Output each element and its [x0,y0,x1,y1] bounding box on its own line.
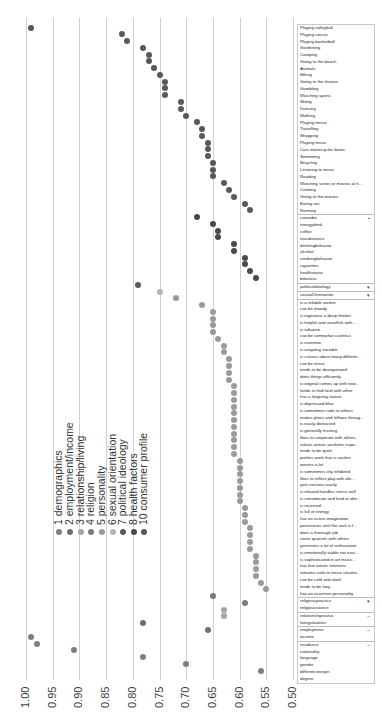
data-point [237,465,243,471]
category-label: is sometimes shy inhibited [298,469,374,476]
category-label: Skiing [298,99,374,106]
axis-tick-label: 0.65 [206,687,218,708]
group-collapse-icon[interactable]: ▾ [367,284,370,291]
data-point [226,356,232,362]
data-point [231,437,237,443]
legend-dot-icon [141,529,147,535]
category-label: is considerate and kind to alm... [298,496,374,503]
category-label: Animals [298,66,374,73]
data-point [199,302,205,308]
legend-dot-icon [88,529,94,535]
group-collapse-icon[interactable]: ▾ [367,292,370,299]
category-label: Gardening [298,45,374,52]
data-point [124,38,130,44]
category-label: religiouspractice▾ [298,597,374,605]
data-point [205,146,211,152]
data-point [247,539,253,545]
gridline [26,18,27,680]
gridline [160,18,161,680]
category-labels-panel[interactable]: Playing volleyballPlaying soccerPlaying … [297,24,375,684]
data-point [210,160,216,166]
category-label: Reading [298,174,374,181]
category-label: Dancing [298,106,374,113]
category-label: nosubstance [298,236,374,243]
category-label: is ingenious a deep thinker [298,313,374,320]
group-collapse-icon[interactable]: ▾ [367,598,370,605]
data-point [140,654,146,660]
data-point [199,133,205,139]
data-point [194,119,200,125]
category-label: Cooking [298,187,374,194]
group-collapse-icon[interactable]: – [367,627,370,634]
data-point [247,207,253,213]
group-collapse-icon[interactable]: ▪ [368,215,370,222]
category-label: Going to the movies [298,194,374,201]
data-point [231,444,237,450]
data-point [231,404,237,410]
group-collapse-icon[interactable]: – [367,613,370,620]
category-label: has a forgiving nature [298,394,374,401]
data-point [162,85,168,91]
data-point [221,607,227,613]
category-label: Camping [298,52,374,59]
data-point [247,268,253,274]
category-label: religiousstance [298,605,374,612]
category-label: Running [298,208,374,215]
category-label: is reserved [298,503,374,510]
gridline [240,18,241,680]
axis-tick-label: 1.00 [19,687,31,708]
category-label: tends to be disorganized [298,367,374,374]
data-point [210,309,216,315]
category-label: cannabis▪ [298,214,374,222]
category-label: smokingbehavior [298,256,374,263]
data-point [221,613,227,619]
data-point [247,525,253,531]
data-point [237,471,243,477]
data-point [119,31,125,37]
category-label: relationshipstatus– [298,612,374,620]
category-label: residence– [298,641,374,649]
data-point [231,397,237,403]
data-point [199,126,205,132]
data-point [242,255,248,261]
data-point [231,451,237,457]
category-label: Cars motorcycles boats [298,147,374,154]
category-label: is emotionally stable not easi... [298,550,374,557]
category-label: employment– [298,626,374,634]
data-point [247,532,253,538]
data-point [205,153,211,159]
data-point [210,173,216,179]
data-point [183,113,189,119]
data-point [221,349,227,355]
data-point [231,390,237,396]
category-label: remains calm in tense situatio... [298,570,374,577]
category-label: Playing basketball [298,39,374,46]
data-point [242,519,248,525]
category-label: gets nervous easily [298,482,374,489]
category-label: has few artistic interests [298,563,374,570]
data-point [28,25,34,31]
category-label: differenceorigin [298,669,374,676]
data-point [173,295,179,301]
data-point [210,322,216,328]
legend-dot-icon [56,529,62,535]
category-label: Playing music [298,140,374,147]
data-point [237,478,243,484]
category-label: energydrink [298,222,374,229]
data-point [140,620,146,626]
category-label: Swimming [298,154,374,161]
data-point [205,627,211,633]
category-label: Travelling [298,126,374,133]
data-point [226,370,232,376]
data-point [253,559,259,565]
data-point [135,282,141,288]
gridline [106,18,107,680]
axis-tick-label: 0.70 [179,687,191,708]
category-label: gender [298,662,374,669]
data-point [210,593,216,599]
data-point [231,417,237,423]
legend-dot-icon [99,529,105,535]
category-label: is outgoing sociable [298,347,374,354]
group-collapse-icon[interactable]: – [367,642,370,649]
category-label: tends to find fault with other [298,388,374,395]
